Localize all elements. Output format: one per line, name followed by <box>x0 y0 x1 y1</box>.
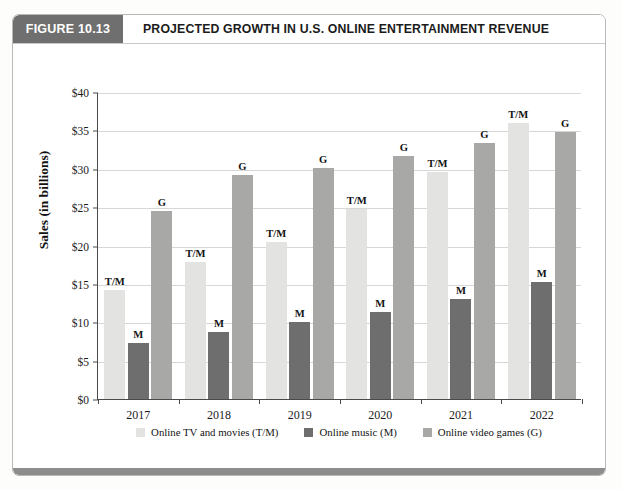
bar-value-label: T/M <box>266 228 286 239</box>
figure-page: FIGURE 10.13 PROJECTED GROWTH IN U.S. ON… <box>0 0 621 490</box>
x-axis-tick-label: 2018 <box>207 408 231 423</box>
chart-legend: Online TV and movies (T/M)Online music (… <box>97 426 581 438</box>
plot-area: $0$5$10$15$20$25$30$35$40T/MMG2017T/MMG2… <box>97 93 581 400</box>
bar-value-label: M <box>214 318 224 329</box>
bar-g-2018: G <box>232 175 253 399</box>
figure-header: FIGURE 10.13 PROJECTED GROWTH IN U.S. ON… <box>13 15 606 43</box>
bar-value-label: M <box>537 268 547 279</box>
x-axis-tick <box>421 399 422 404</box>
bar-tm-2022: T/M <box>508 123 529 399</box>
figure-bottom-band <box>13 468 606 475</box>
bar-value-label: G <box>238 161 246 172</box>
bar-g-2019: G <box>313 168 334 399</box>
bar-tm-2020: T/M <box>346 209 367 399</box>
legend-item: Online video games (G) <box>423 426 542 438</box>
legend-label: Online TV and movies (T/M) <box>151 426 278 438</box>
bar-group: T/MMG2021 <box>421 93 502 399</box>
x-axis-tick-label: 2017 <box>126 408 150 423</box>
bar-value-label: T/M <box>508 109 528 120</box>
x-axis-tick <box>179 399 180 404</box>
bar-value-label: G <box>561 118 569 129</box>
y-axis-tick-label: $5 <box>78 356 90 368</box>
bar-group: T/MMG2017 <box>98 93 179 399</box>
x-axis-tick <box>259 399 260 404</box>
bar-value-label: M <box>295 308 305 319</box>
legend-label: Online video games (G) <box>438 426 542 438</box>
bar-value-label: T/M <box>105 276 125 287</box>
bar-tm-2021: T/M <box>427 172 448 399</box>
x-axis-tick <box>340 399 341 404</box>
x-axis-tick-label: 2022 <box>530 408 554 423</box>
bar-value-label: M <box>375 298 385 309</box>
x-axis-tick <box>501 399 502 404</box>
bar-m-2018: M <box>208 332 229 399</box>
bar-value-label: G <box>400 142 408 153</box>
legend-swatch <box>423 428 432 437</box>
y-axis-tick-label: $35 <box>72 125 89 137</box>
legend-label: Online music (M) <box>319 426 396 438</box>
x-axis-tick-label: 2019 <box>288 408 312 423</box>
bar-value-label: M <box>133 329 143 340</box>
bar-group: T/MMG2022 <box>501 93 582 399</box>
y-axis-tick-label: $25 <box>72 202 89 214</box>
bar-tm-2017: T/M <box>104 290 125 399</box>
chart-canvas: Sales (in billions) $0$5$10$15$20$25$30$… <box>13 44 606 476</box>
bar-g-2017: G <box>151 211 172 399</box>
bar-value-label: G <box>319 154 327 165</box>
bar-group: T/MMG2020 <box>340 93 421 399</box>
bar-g-2021: G <box>474 143 495 399</box>
legend-swatch <box>136 428 145 437</box>
y-axis-tick-label: $15 <box>72 279 89 291</box>
bar-group: T/MMG2018 <box>179 93 260 399</box>
legend-item: Online music (M) <box>304 426 396 438</box>
page-title: PROJECTED GROWTH IN U.S. ONLINE ENTERTAI… <box>143 22 549 36</box>
y-axis-tick-label: $0 <box>78 394 90 406</box>
bar-value-label: M <box>456 285 466 296</box>
bar-g-2022: G <box>555 132 576 399</box>
bar-value-label: G <box>480 129 488 140</box>
figure-number-tag: FIGURE 10.13 <box>13 15 123 43</box>
y-axis-tick-label: $40 <box>72 87 89 99</box>
y-axis-title: Sales (in billions) <box>36 95 52 305</box>
bar-value-label: T/M <box>185 248 205 259</box>
figure-title-bar: PROJECTED GROWTH IN U.S. ONLINE ENTERTAI… <box>123 15 606 43</box>
bar-g-2020: G <box>393 156 414 399</box>
bar-m-2019: M <box>289 322 310 399</box>
y-axis-tick-label: $30 <box>72 164 89 176</box>
x-axis-tick <box>98 399 99 404</box>
figure-container: FIGURE 10.13 PROJECTED GROWTH IN U.S. ON… <box>12 14 606 476</box>
legend-swatch <box>304 428 313 437</box>
bar-tm-2018: T/M <box>185 262 206 399</box>
bar-tm-2019: T/M <box>266 242 287 399</box>
bar-value-label: G <box>158 197 166 208</box>
bar-group: T/MMG2019 <box>259 93 340 399</box>
bar-m-2017: M <box>128 343 149 399</box>
y-axis-tick-label: $20 <box>72 241 89 253</box>
y-axis-tick-label: $10 <box>72 317 89 329</box>
bar-m-2020: M <box>370 312 391 399</box>
bar-value-label: T/M <box>347 195 367 206</box>
bar-m-2021: M <box>450 299 471 399</box>
x-axis-tick <box>582 399 583 404</box>
bar-m-2022: M <box>531 282 552 399</box>
x-axis-tick-label: 2020 <box>368 408 392 423</box>
legend-item: Online TV and movies (T/M) <box>136 426 278 438</box>
bar-value-label: T/M <box>427 158 447 169</box>
x-axis-tick-label: 2021 <box>449 408 473 423</box>
